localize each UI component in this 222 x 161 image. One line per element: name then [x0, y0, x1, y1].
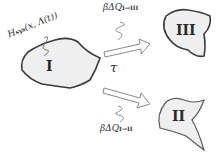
- region-III-label: III: [176, 22, 196, 38]
- squiggle-upper-icon: [116, 22, 125, 40]
- transition-time-label: τ: [110, 60, 117, 75]
- squiggle-lower-icon: [116, 106, 124, 122]
- region-I-shape: [22, 38, 100, 88]
- heat-upper-label: βΔQI→III: [103, 2, 138, 12]
- arrow-to-III-icon: [104, 39, 150, 57]
- region-II-label: II: [172, 108, 185, 124]
- heat-lower-label: βΔQI→II: [100, 123, 133, 133]
- region-I-label: I: [46, 58, 53, 74]
- arrow-to-II-icon: [103, 88, 150, 108]
- region-II-shape: [159, 98, 204, 150]
